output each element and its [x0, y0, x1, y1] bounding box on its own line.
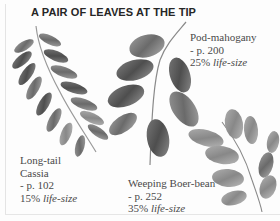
- scale-percent: 35%: [128, 202, 148, 214]
- field-guide-page: A PAIR OF LEAVES AT THE TIP: [0, 0, 280, 221]
- scale-note: 15% life-size: [20, 192, 77, 205]
- species-name: Pod-mahogany: [190, 31, 257, 44]
- long-tail-cassia-leaf-illustration: [10, 26, 111, 158]
- scale-label: life-size: [151, 202, 185, 214]
- page-reference: - p. 200: [190, 44, 257, 57]
- scale-label: life-size: [213, 56, 247, 68]
- scale-note: 35% life-size: [128, 202, 215, 215]
- scale-percent: 15%: [20, 192, 40, 204]
- page-reference: - p. 102: [20, 179, 77, 192]
- species-name: Long-tail: [20, 154, 77, 167]
- species-name-line2: Cassia: [20, 167, 77, 180]
- page-reference: - p. 252: [128, 190, 215, 203]
- caption-pod-mahogany: Pod-mahogany - p. 200 25% life-size: [190, 31, 257, 69]
- caption-long-tail-cassia: Long-tail Cassia - p. 102 15% life-size: [20, 154, 77, 204]
- scale-label: life-size: [43, 192, 77, 204]
- species-name: Weeping Boer-bean: [128, 177, 215, 190]
- caption-weeping-boer-bean: Weeping Boer-bean - p. 252 35% life-size: [128, 177, 215, 215]
- scale-note: 25% life-size: [190, 56, 257, 69]
- scale-percent: 25%: [190, 56, 210, 68]
